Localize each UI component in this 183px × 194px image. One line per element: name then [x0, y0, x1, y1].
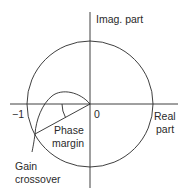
phase-margin-label-line2: margin — [52, 137, 84, 149]
gain-crossover-label-line1: Gain — [15, 160, 37, 172]
real-axis-label-line2: part — [156, 123, 174, 135]
phase-margin-arc — [62, 104, 66, 118]
zero-label: 0 — [94, 108, 100, 120]
gain-crossover-label-line2: crossover — [15, 173, 61, 185]
minus-one-label: −1 — [12, 108, 24, 120]
imag-axis-label: Imag. part — [96, 13, 143, 25]
phase-margin-label-line1: Phase — [54, 124, 84, 136]
real-axis-label-line1: Real — [154, 110, 176, 122]
